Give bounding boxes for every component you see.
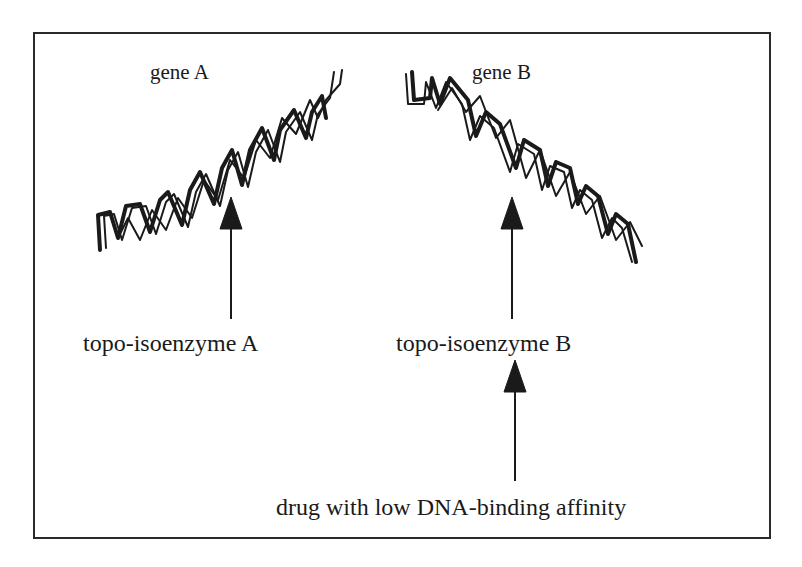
topo-isoenzyme-b-label: topo-isoenzyme B <box>396 331 571 355</box>
arrow-up-icon <box>501 197 523 319</box>
topo-isoenzyme-a-label: topo-isoenzyme A <box>83 331 258 355</box>
dna-helix-b-icon <box>406 72 642 262</box>
arrow-up-icon <box>220 197 242 319</box>
diagram-art <box>0 0 802 567</box>
drug-label: drug with low DNA-binding affinity <box>276 495 626 519</box>
gene-a-label: gene A <box>150 62 209 83</box>
arrow-up-icon <box>504 360 526 481</box>
dna-helix-a-icon <box>98 70 342 250</box>
gene-b-label: gene B <box>472 62 531 83</box>
